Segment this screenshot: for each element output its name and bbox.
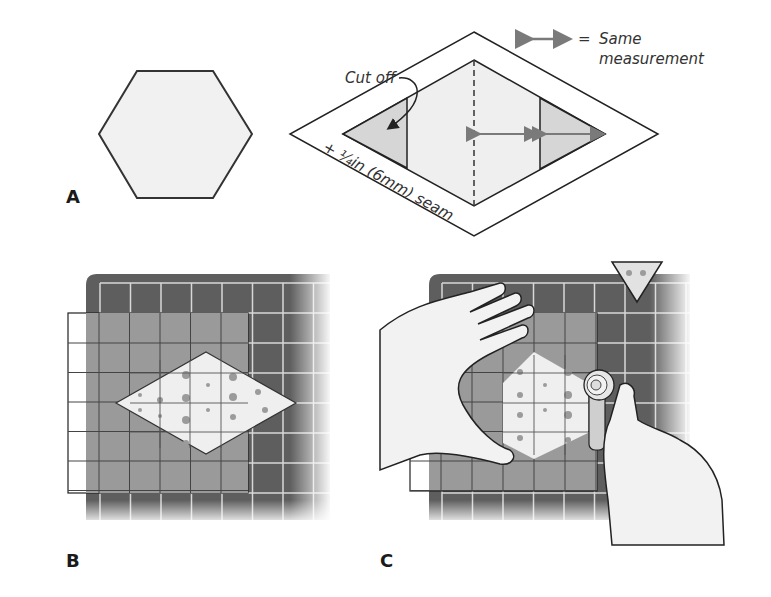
- quilting-diagram: A Cut off + ¼in (6mm) seam = Same measur…: [0, 0, 771, 597]
- fabric-dot: [262, 407, 268, 413]
- panel-b: B: [66, 274, 336, 571]
- fabric-dot: [182, 416, 190, 424]
- fabric-dot: [138, 393, 142, 397]
- panel-label-b: B: [66, 550, 80, 571]
- fabric-dot: [517, 435, 523, 441]
- panel-label-a: A: [66, 186, 80, 207]
- cut-off-label: Cut off: [345, 69, 398, 87]
- fabric-dot: [182, 371, 190, 379]
- fabric-dot: [543, 383, 547, 387]
- fabric-dot: [182, 394, 190, 402]
- panel-a: A Cut off + ¼in (6mm) seam = Same measur…: [66, 30, 705, 236]
- fabric-dot: [229, 393, 237, 401]
- fabric-dot: [543, 408, 547, 412]
- legend: = Same measurement: [530, 30, 705, 68]
- fabric-dot: [206, 408, 210, 412]
- fabric-dot: [565, 437, 571, 443]
- fabric-dot: [206, 383, 210, 387]
- fabric-dot: [229, 373, 237, 381]
- fabric-dot: [517, 369, 523, 375]
- legend-equals: =: [578, 30, 591, 48]
- fabric-dot: [255, 389, 261, 395]
- fabric-dot: [230, 414, 236, 420]
- legend-text-line2: measurement: [599, 50, 705, 68]
- panel-c: C: [380, 262, 724, 571]
- legend-text-line1: Same: [599, 30, 642, 48]
- fabric-dot: [138, 408, 142, 412]
- fabric-dot: [183, 440, 189, 446]
- fabric-dot: [517, 392, 523, 398]
- panel-label-c: C: [380, 550, 393, 571]
- hexagon-template: [99, 71, 252, 198]
- fabric-dot: [517, 412, 523, 418]
